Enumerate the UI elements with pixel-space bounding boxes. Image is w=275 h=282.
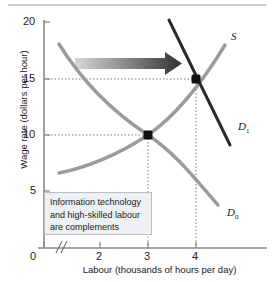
figure-supply-demand-shift: 20 15 10 5 0 2 3 4 S D1 D0 Information t…: [0, 0, 275, 282]
equilibrium-point-initial: [144, 131, 153, 140]
equilibrium-point-new: [192, 75, 201, 84]
curve-label-demand-initial: D0: [227, 206, 238, 221]
y-axis-label: Wage rate (dollars per hour): [18, 45, 29, 175]
demand-initial-letter: D: [227, 206, 235, 218]
x-tick-4: 4: [192, 250, 198, 262]
demand-shifted-letter: D: [238, 120, 246, 132]
demand-shifted-subscript: 1: [246, 127, 250, 135]
annotation-line-1: Information technology: [50, 196, 146, 209]
curve-label-demand-shifted: D1: [238, 120, 249, 135]
demand-initial-subscript: 0: [235, 213, 239, 221]
x-axis-label: Labour (thousands of hours per day): [47, 264, 272, 275]
y-tick-0: 0: [30, 250, 36, 262]
annotation-textbox: Information technology and high-skilled …: [44, 192, 152, 235]
curve-label-supply: S: [231, 30, 237, 42]
x-tick-2: 2: [96, 250, 102, 262]
x-tick-3: 3: [144, 250, 150, 262]
shift-arrow-icon: [75, 52, 182, 75]
axis-break-icon: [56, 241, 67, 253]
y-tick-20: 20: [23, 15, 35, 27]
chart-canvas: [0, 0, 275, 282]
annotation-line-2: and high-skilled labour: [50, 209, 146, 222]
annotation-line-3: are complements: [50, 221, 146, 234]
y-tick-5: 5: [30, 184, 36, 196]
